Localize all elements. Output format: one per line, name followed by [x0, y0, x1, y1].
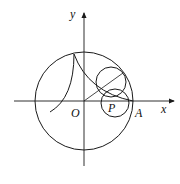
- origin-label: O: [71, 106, 80, 120]
- x-axis-label: x: [160, 102, 167, 116]
- point-a-label: A: [134, 106, 143, 120]
- point-p-label: P: [107, 101, 116, 115]
- astroid-arc-right: [74, 54, 133, 101]
- y-axis-label: y: [69, 7, 76, 21]
- diagram-canvas: y x O A P: [0, 0, 180, 184]
